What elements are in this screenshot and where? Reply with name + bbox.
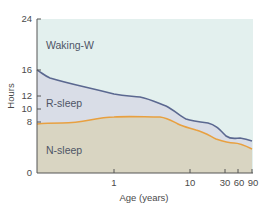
x-axis-title: Age (years): [119, 192, 168, 203]
n-sleep-label: N-sleep: [46, 144, 82, 156]
svg-text:24: 24: [21, 13, 32, 24]
y-axis-title: Hours: [5, 83, 16, 109]
svg-text:1: 1: [111, 177, 116, 188]
y-tick-labels: 24 16 12 10 8 0: [21, 13, 32, 178]
x-tick-labels: 1 10 30 60 90: [111, 177, 258, 188]
sleep-by-age-chart: 24 16 12 10 8 0 1 10 30 60 90 Age (years…: [0, 0, 265, 212]
svg-text:10: 10: [185, 177, 196, 188]
waking-label: Waking-W: [46, 39, 94, 51]
svg-text:8: 8: [27, 116, 32, 127]
svg-text:10: 10: [21, 103, 32, 114]
svg-text:90: 90: [248, 177, 259, 188]
svg-text:16: 16: [21, 64, 32, 75]
svg-text:60: 60: [234, 177, 245, 188]
svg-text:12: 12: [21, 90, 32, 101]
svg-text:30: 30: [220, 177, 231, 188]
svg-text:0: 0: [27, 167, 32, 178]
r-sleep-label: R-sleep: [46, 97, 82, 109]
